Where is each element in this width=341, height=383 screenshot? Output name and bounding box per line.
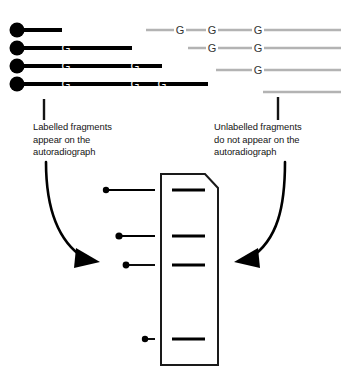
arrow-unlabelled-to-gel-shaft (250, 162, 285, 258)
autoradiograph-gel-outline[interactable] (161, 174, 218, 365)
pointer-fragment-2-dot (115, 232, 122, 239)
base-letter-unlabelled-1-3: G (254, 24, 263, 36)
pointer-fragment-1 (103, 187, 155, 193)
base-letter-labelled-4-3: G (158, 78, 167, 90)
labelled-fragment-2: G (10, 41, 133, 56)
diagram-vector-layer: GGGGGG GGGGGG (0, 0, 341, 383)
base-letter-labelled-4-1: G (62, 78, 71, 90)
arrow-unlabelled-to-gel (234, 162, 285, 268)
base-letter-labelled-2-1: G (62, 42, 71, 54)
gel-pointer-fragments-group (103, 187, 155, 342)
base-letter-unlabelled-1-2: G (208, 24, 217, 36)
pointer-fragment-3 (123, 262, 155, 269)
pointer-fragment-2 (115, 232, 155, 239)
base-letter-unlabelled-3-1: G (254, 64, 263, 76)
pointer-fragment-1-dot (103, 187, 109, 193)
arrow-labelled-to-gel-shaft (46, 162, 84, 258)
unlabelled-fragments-group: GGGGGG (146, 24, 341, 92)
base-letter-labelled-3-2: G (131, 60, 140, 72)
unlabelled-fragment-1: GGG (146, 24, 341, 36)
autoradiograph-gel-group[interactable] (161, 174, 218, 365)
caption-labelled-fragments: Labelled fragments appear on the autorad… (33, 121, 173, 159)
arrow-labelled-to-gel (46, 162, 100, 268)
base-letter-unlabelled-2-1: G (208, 42, 217, 54)
unlabelled-fragment-2: GG (188, 42, 341, 54)
labelled-fragment-4: GGG (10, 77, 209, 92)
labelled-fragment-1 (10, 23, 63, 38)
base-letter-labelled-4-2: G (131, 78, 140, 90)
arrow-unlabelled-to-gel-head (234, 248, 260, 268)
pointer-fragment-4 (142, 336, 155, 342)
leader-ticks-group (44, 97, 278, 120)
base-letter-unlabelled-2-2: G (254, 42, 263, 54)
unlabelled-fragment-3: G (216, 64, 341, 76)
radioactive-label-dot-4 (10, 77, 25, 92)
pointer-fragment-4-dot (142, 336, 148, 342)
labelled-fragment-3: GG (10, 59, 163, 74)
base-letter-labelled-3-1: G (62, 60, 71, 72)
radioactive-label-dot-1 (10, 23, 25, 38)
diagram-canvas: GGGGGG GGGGGG Labelled fragments appear … (0, 0, 341, 383)
radioactive-label-dot-2 (10, 41, 25, 56)
caption-unlabelled-fragments: Unlabelled fragments do not appear on th… (214, 121, 341, 159)
arrow-labelled-to-gel-head (74, 248, 100, 268)
pointer-fragment-3-dot (123, 262, 130, 269)
radioactive-label-dot-3 (10, 59, 25, 74)
base-letter-unlabelled-1-1: G (176, 24, 185, 36)
